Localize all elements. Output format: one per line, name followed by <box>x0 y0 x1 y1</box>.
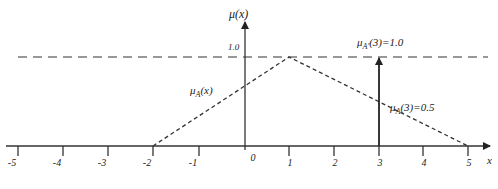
tick-label: -4 <box>53 157 61 168</box>
membership-function-diagram: -5 -4 -3 -2 -1 0 1 2 3 4 5 x μ(x) 1.0 μA… <box>0 0 498 189</box>
tick-label: -1 <box>189 157 197 168</box>
y-tick-label-1: 1.0 <box>228 42 240 52</box>
tick-label: -5 <box>8 157 16 168</box>
x-ticks <box>18 146 468 156</box>
x-axis-label: x <box>486 154 492 166</box>
y-axis-label: μ(x) <box>228 7 248 21</box>
tick-label: -2 <box>143 157 151 168</box>
tick-label: 1 <box>288 157 293 168</box>
annotation-singleton-value: μA'(3)=1.0 <box>356 36 404 51</box>
tick-label: -3 <box>98 157 106 168</box>
tick-label: 2 <box>333 157 338 168</box>
annotation-curve-value: μA(3)=0.5 <box>389 101 435 116</box>
tick-label: 0 <box>251 152 256 163</box>
tick-label: 4 <box>422 157 427 168</box>
x-tick-labels: -5 -4 -3 -2 -1 0 1 2 3 4 5 <box>8 152 472 168</box>
curve-label: μA(x) <box>189 84 213 99</box>
tick-label: 3 <box>377 157 383 168</box>
tick-label: 5 <box>467 157 472 168</box>
